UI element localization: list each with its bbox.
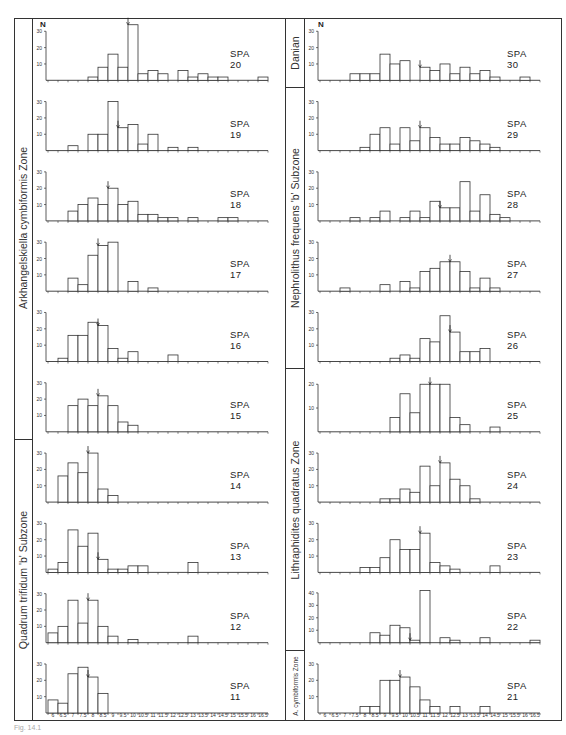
x-tick-label: 16 [250, 712, 256, 718]
x-tick-label: 14 [482, 712, 488, 718]
y-axis-label-right: N [318, 20, 324, 29]
x-tick-label: 15 [230, 712, 236, 718]
x-tick-label: 16.5 [258, 712, 268, 718]
x-tick-label: 16.5 [530, 712, 540, 718]
histogram-bar [380, 680, 390, 713]
x-tick-label: 15 [502, 712, 508, 718]
svg-text:10: 10 [308, 694, 314, 700]
svg-text:30: 30 [308, 661, 314, 667]
x-tick-label: 8 [92, 712, 95, 718]
y-axis-label-left: N [40, 20, 46, 29]
x-tick-label: 6.5 [332, 712, 339, 718]
x-tick-label: 12 [170, 712, 176, 718]
x-tick-label: 9 [112, 712, 115, 718]
x-tick-label: 6.5 [60, 712, 67, 718]
x-tick-label: 10 [402, 712, 408, 718]
x-tick-label: 10.5 [410, 712, 420, 718]
x-tick-label: 14.5 [490, 712, 500, 718]
x-tick-label: 13.5 [198, 712, 208, 718]
x-tick-label: 7 [344, 712, 347, 718]
x-tick-label: 16 [522, 712, 528, 718]
x-tick-label: 14.5 [218, 712, 228, 718]
x-tick-label: 12.5 [178, 712, 188, 718]
histogram-bar [410, 687, 420, 713]
x-tick-label: 12 [442, 712, 448, 718]
x-tick-label: 10 [130, 712, 136, 718]
x-tick-label: 7.5 [80, 712, 87, 718]
x-tick-label: 13.5 [470, 712, 480, 718]
x-tick-label: 10.5 [138, 712, 148, 718]
sample-label: SPA 21 [507, 680, 526, 702]
figure-caption: Fig. 14.1 [14, 724, 41, 731]
x-tick-label: 9.5 [120, 712, 127, 718]
x-tick-label: 14 [210, 712, 216, 718]
x-tick-label: 6 [52, 712, 55, 718]
x-tick-label: 8.5 [100, 712, 107, 718]
x-tick-label: 6 [324, 712, 327, 718]
x-tick-label: 13 [462, 712, 468, 718]
histogram-bar [400, 677, 410, 713]
x-tick-label: 11 [150, 712, 155, 718]
x-tick-label: 8.5 [372, 712, 379, 718]
x-tick-label: 9.5 [392, 712, 399, 718]
x-tick-label: 15.5 [510, 712, 520, 718]
x-tick-label: 8 [364, 712, 367, 718]
svg-text:20: 20 [308, 677, 314, 683]
histogram-bar [390, 680, 400, 713]
x-tick-label: 9 [384, 712, 387, 718]
x-tick-label: 13 [190, 712, 196, 718]
x-tick-label: 11.5 [158, 712, 167, 718]
x-tick-label: 7.5 [352, 712, 359, 718]
x-tick-label: 11 [422, 712, 427, 718]
x-tick-label: 15.5 [238, 712, 248, 718]
x-tick-label: 11.5 [430, 712, 439, 718]
x-tick-label: 7 [72, 712, 75, 718]
x-tick-label: 12.5 [450, 712, 460, 718]
